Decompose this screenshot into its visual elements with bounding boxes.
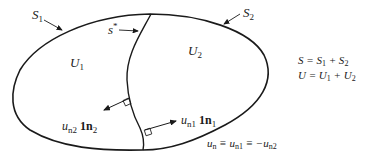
label-normal1: un1 1n1 <box>181 114 216 129</box>
equation-surface-sum: S = S1 + S2 <box>298 55 348 68</box>
diagram-canvas: S1 S2 s* U1 U2 un2 1n2 un1 1n1 S = S1 + … <box>0 0 386 158</box>
equation-continuity: un ≡ un1 ≡ −un2 <box>207 138 277 151</box>
sstar-leader <box>119 30 138 31</box>
normal2-arrow <box>104 98 130 110</box>
label-s1: S1 <box>32 8 43 24</box>
label-s2: S2 <box>243 6 254 22</box>
equation-region-sum: U = U1 + U2 <box>298 70 356 83</box>
label-normal2: un2 1n2 <box>62 120 97 135</box>
s1-leader <box>44 20 62 30</box>
label-u1: U1 <box>70 56 84 72</box>
label-u2: U2 <box>188 44 202 60</box>
label-interface: s* <box>108 22 118 36</box>
s2-leader <box>224 14 240 24</box>
